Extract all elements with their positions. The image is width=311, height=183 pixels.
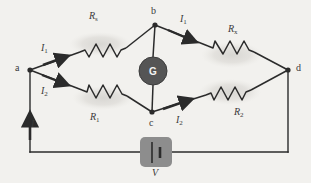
- wire-b-to-g: [153, 25, 155, 57]
- wheatstone-bridge-figure: a b c d Rs Rx R1 R2 G V I I1 I1 I2 I2: [0, 0, 311, 183]
- node-dot-b: [152, 22, 157, 27]
- wire-g-to-c: [152, 85, 153, 112]
- wire-rs-to-b: [126, 25, 155, 48]
- node-dot-c: [149, 109, 154, 114]
- current-arrow-i1-left: [43, 56, 68, 65]
- current-arrow-i1-right: [168, 30, 196, 42]
- node-dot-a: [27, 67, 32, 72]
- galvanometer-icon: [139, 57, 167, 85]
- circuit-schematic: [0, 0, 311, 183]
- source-housing: [140, 137, 172, 167]
- current-arrow-i2-right: [163, 99, 192, 109]
- glow-r-two: [199, 79, 261, 105]
- wire-r1-to-c: [127, 96, 152, 112]
- current-arrow-i2-left: [42, 75, 68, 85]
- wire-r2-to-d: [251, 70, 288, 90]
- node-dot-d: [285, 67, 290, 72]
